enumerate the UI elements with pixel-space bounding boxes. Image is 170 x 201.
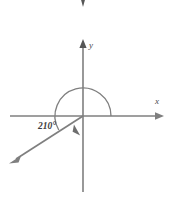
angle-diagram-figure: x y 210° [0, 0, 170, 201]
angle-measure-label: 210° [37, 121, 56, 131]
x-axis-arrowhead-icon [155, 112, 164, 119]
cropped-arrowhead-fragment-icon [80, 0, 86, 7]
x-axis [10, 112, 164, 119]
y-axis-arrowhead-icon [79, 39, 86, 48]
arc-arrowhead-icon [73, 125, 81, 136]
x-axis-label: x [154, 96, 159, 106]
angle-diagram-canvas: x y 210° [0, 0, 170, 201]
y-axis-label: y [88, 40, 93, 50]
